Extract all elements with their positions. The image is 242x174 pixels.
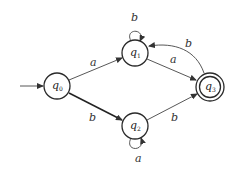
state-q2-label: q xyxy=(130,119,137,132)
edge-label-q1-q3: a xyxy=(170,53,177,66)
state-q0: q0 xyxy=(44,73,70,99)
edge-label-q0-q1: a xyxy=(90,56,97,69)
state-q3-accepting: q3 xyxy=(196,73,224,101)
edge-label-q0-q2: b xyxy=(89,111,96,124)
state-q0-label: q xyxy=(52,79,59,92)
automaton-diagram: a b b a a b b q0 q1 q2 q3 xyxy=(0,0,242,174)
state-q1-label: q xyxy=(130,46,137,59)
state-q1: q1 xyxy=(122,40,148,66)
state-q3-label: q xyxy=(205,80,212,93)
edge-label-q1-q1: b xyxy=(131,11,138,24)
state-q2: q2 xyxy=(122,113,148,139)
edge-label-q3-q1: b xyxy=(185,37,192,50)
edge-label-q2-q2: a xyxy=(135,152,142,165)
edge-label-q2-q3: b xyxy=(171,111,178,124)
